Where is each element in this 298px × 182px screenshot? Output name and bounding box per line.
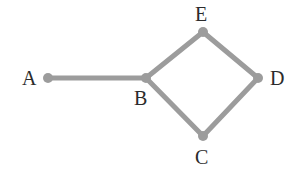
edges-group xyxy=(48,32,258,136)
node-label-b: B xyxy=(134,88,147,108)
graph-node-e xyxy=(198,27,208,37)
graph-figure: ABCDE xyxy=(0,0,298,182)
graph-edge-c-d xyxy=(203,78,258,136)
node-label-d: D xyxy=(270,68,284,88)
graph-edge-b-e xyxy=(146,32,203,78)
graph-node-a xyxy=(43,73,53,83)
graph-node-b xyxy=(141,73,151,83)
graph-canvas xyxy=(0,0,298,182)
graph-node-d xyxy=(253,73,263,83)
node-label-a: A xyxy=(22,68,36,88)
graph-edge-b-c xyxy=(146,78,203,136)
graph-node-c xyxy=(198,131,208,141)
node-label-c: C xyxy=(195,147,208,167)
node-label-e: E xyxy=(195,4,207,24)
graph-edge-e-d xyxy=(203,32,258,78)
